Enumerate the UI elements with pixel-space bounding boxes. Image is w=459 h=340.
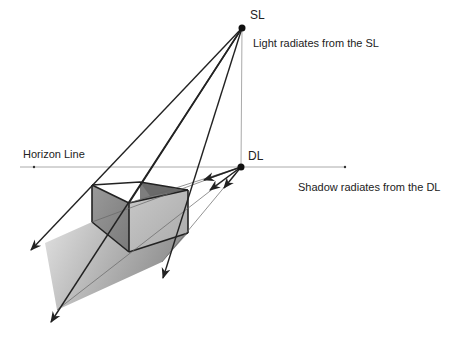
sl-point: [239, 25, 246, 32]
sl-dl-vertical-line: [241, 28, 242, 167]
sl-label: SL: [250, 9, 265, 21]
light-caption: Light radiates from the SL: [253, 38, 379, 49]
horizon-line: [20, 166, 346, 168]
shadow-caption: Shadow radiates from the DL: [298, 182, 440, 193]
dl-point: [238, 164, 245, 171]
horizon-label: Horizon Line: [23, 149, 85, 160]
dl-arrows: [204, 167, 241, 190]
dl-label: DL: [248, 150, 263, 162]
diagram-canvas: [0, 0, 459, 340]
